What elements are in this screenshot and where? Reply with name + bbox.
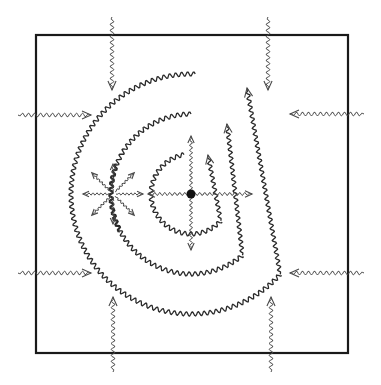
diagram-stage <box>0 0 381 385</box>
point-source-dot <box>187 190 196 199</box>
wave-tail-inner <box>208 155 222 221</box>
wave-radiation-diagram <box>0 0 381 385</box>
source-ray-down <box>188 194 194 250</box>
starburst-ray <box>115 196 134 215</box>
incoming-arrow-bottom <box>109 297 117 372</box>
incoming-arrow-top <box>108 17 116 90</box>
starburst-ray <box>116 191 143 196</box>
wave-arc-middle-1 <box>109 164 243 276</box>
wave-circles <box>69 72 282 316</box>
arrowhead-icon <box>224 124 232 133</box>
incoming-arrow-right <box>290 110 364 118</box>
wave-arc-outer-0 <box>69 72 282 316</box>
incoming-arrow-left <box>18 269 91 277</box>
starburst-emitter <box>83 164 143 224</box>
source-ray-left <box>148 191 191 197</box>
source-ray-right <box>191 191 252 197</box>
starburst-ray <box>92 196 111 215</box>
wave-tail-middle <box>226 124 243 255</box>
incoming-arrow-right <box>290 269 364 277</box>
wave-tail-outer <box>246 88 281 274</box>
arrowhead-icon <box>245 88 253 98</box>
incoming-arrow-left <box>18 111 91 119</box>
source-ray-up <box>188 136 194 194</box>
starburst-ray <box>115 173 134 192</box>
wave-arc-middle-0 <box>109 112 191 232</box>
starburst-ray <box>83 191 110 196</box>
starburst-ray <box>92 173 111 192</box>
incoming-arrow-bottom <box>267 297 275 372</box>
wave-circle-outer <box>69 72 282 316</box>
incoming-arrow-top <box>264 17 272 90</box>
